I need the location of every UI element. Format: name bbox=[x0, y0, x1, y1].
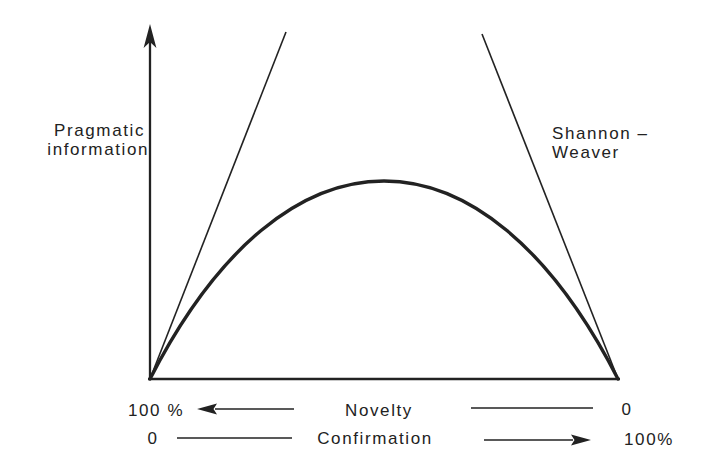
pragmatic-information-figure: Pragmatic information Shannon – Weaver 1… bbox=[0, 0, 708, 466]
diagram-canvas: Pragmatic information Shannon – Weaver 1… bbox=[0, 0, 708, 466]
novelty-left-value: 100 % bbox=[128, 401, 184, 420]
pragmatic-information-curve bbox=[150, 181, 618, 379]
novelty-right-value: 0 bbox=[621, 400, 632, 419]
novelty-axis-label: Novelty bbox=[345, 401, 413, 420]
shannon-weaver-label-line2: Weaver bbox=[552, 143, 620, 162]
shannon-weaver-left-line bbox=[150, 32, 286, 379]
y-axis-label-line1: Pragmatic bbox=[54, 121, 145, 140]
confirmation-left-value: 0 bbox=[147, 429, 158, 448]
confirmation-right-value: 100% bbox=[624, 430, 674, 449]
shannon-weaver-label-line1: Shannon – bbox=[552, 124, 649, 143]
confirmation-axis-label: Confirmation bbox=[317, 429, 433, 448]
novelty-left-arrowhead-icon bbox=[197, 403, 217, 414]
confirmation-right-arrowhead-icon bbox=[571, 434, 591, 445]
y-axis-label-line2: information bbox=[47, 140, 149, 159]
shannon-weaver-right-line bbox=[482, 34, 618, 379]
